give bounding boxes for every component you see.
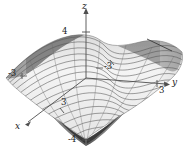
surface-plot-canvas xyxy=(0,0,188,152)
x-axis-arrowhead xyxy=(25,121,31,126)
z-axis-label: z xyxy=(82,2,87,11)
tick-label-x-3: 3 xyxy=(61,98,66,107)
tick-label-y-neg3: -3 xyxy=(8,69,16,78)
x-axis-label: x xyxy=(15,122,20,131)
tick-label-y-3: 3 xyxy=(159,86,164,95)
surface-plot-figure: z y x 4 -4 3 -3 -3 3 xyxy=(0,0,188,152)
tick-label-z-neg4: -4 xyxy=(68,135,76,144)
tick-label-x-neg3: -3 xyxy=(104,62,112,71)
y-axis-label: y xyxy=(172,78,177,87)
tick-label-z-4: 4 xyxy=(62,27,67,36)
